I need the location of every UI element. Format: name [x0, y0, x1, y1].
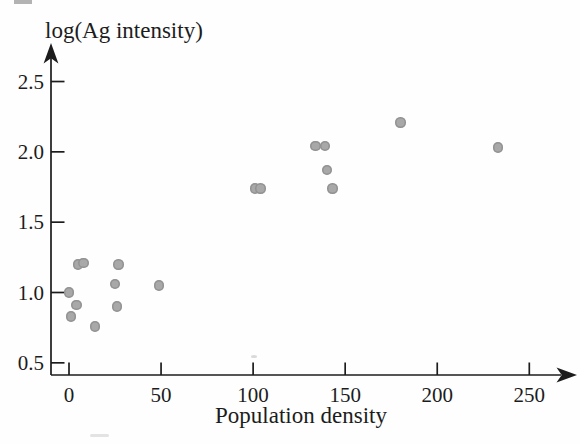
x-axis-title: Population density [215, 403, 387, 429]
y-tick-label: 2.5 [0, 70, 44, 94]
data-point [327, 183, 338, 194]
data-point [78, 258, 89, 269]
scan-artifact-speck [251, 355, 257, 358]
x-tick-label: 250 [514, 383, 546, 407]
data-point [112, 301, 123, 312]
y-tick-label: 2.0 [0, 140, 44, 164]
data-point [90, 321, 101, 332]
y-tick-label: 0.5 [0, 351, 44, 375]
axes [0, 0, 580, 444]
data-point [66, 311, 77, 322]
data-point [255, 183, 266, 194]
tick-marks [51, 82, 529, 375]
x-tick-label: 50 [151, 383, 172, 407]
data-point [154, 280, 165, 291]
scatter-plot: log(Ag intensity) 0501001502002500.51.01… [0, 0, 580, 444]
y-tick-label: 1.5 [0, 210, 44, 234]
data-point [71, 300, 82, 311]
data-point [64, 287, 75, 298]
data-point [493, 142, 504, 153]
scan-artifact-speck [90, 434, 109, 437]
x-tick-label: 0 [64, 383, 75, 407]
x-tick-label: 200 [421, 383, 453, 407]
data-point [395, 117, 406, 128]
y-tick-label: 1.0 [0, 281, 44, 305]
data-point [113, 259, 124, 270]
